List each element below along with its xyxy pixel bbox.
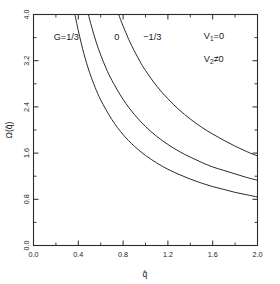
- x-tick-label: 1.6: [208, 250, 218, 259]
- curve-label-zero: 0: [114, 32, 119, 42]
- x-axis-ticks: [34, 15, 258, 246]
- y-axis-title: Ω(q̂): [4, 121, 14, 138]
- curve-series-2: [119, 15, 258, 156]
- y-tick-label: 4.0: [22, 10, 31, 20]
- chart-canvas: 0.00.40.81.21.62.0 0.00.81.62.43.24.0 q̂…: [0, 0, 280, 284]
- y-tick-label: 0.8: [22, 194, 31, 204]
- figure-container: 0.00.40.81.21.62.0 0.00.81.62.43.24.0 q̂…: [0, 0, 280, 284]
- y-tick-label: 2.4: [22, 102, 31, 112]
- y-axis-ticks: [34, 15, 258, 246]
- x-tick-label: 0.8: [118, 250, 128, 259]
- y-tick-label: 0.0: [22, 241, 31, 251]
- plot-frame: [34, 15, 258, 246]
- x-tick-label: 2.0: [253, 250, 263, 259]
- x-axis-title: q̂: [143, 269, 148, 279]
- curve-label-minus-one-third: −1/3: [143, 32, 161, 42]
- axes-group: [34, 15, 258, 246]
- y-axis-title-group: Ω(q̂): [4, 121, 14, 138]
- data-curves: [75, 15, 258, 197]
- y-tick-label: 3.2: [22, 56, 31, 66]
- curve-series-0: [75, 15, 258, 197]
- x-tick-label: 0.4: [73, 250, 83, 259]
- y-tick-label: 1.6: [22, 148, 31, 158]
- y-axis-tick-labels: 0.00.81.62.43.24.0: [22, 10, 31, 251]
- x-axis-tick-labels: 0.00.40.81.21.62.0: [29, 250, 263, 259]
- x-tick-label: 1.2: [163, 250, 173, 259]
- curve-label-g-one-third: G=1/3: [54, 32, 79, 42]
- condition-v2: V2≠0: [204, 54, 224, 65]
- condition-v1: V1=0: [204, 31, 224, 42]
